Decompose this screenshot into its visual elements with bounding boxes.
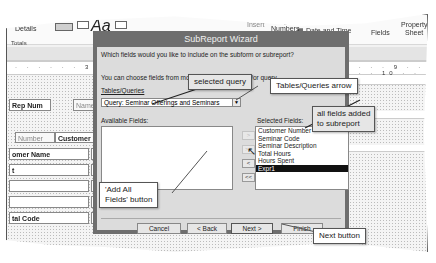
property-sheet-button[interactable]: Property (401, 21, 427, 28)
tables-queries-combo[interactable]: Query: Seminar Offerings and Seminars ▼ (101, 98, 241, 107)
list-item[interactable]: Seminar Code (256, 135, 348, 143)
callout-next-button: Next button (313, 228, 366, 244)
tables-queries-label: Tables/Queries (101, 87, 144, 94)
street-field[interactable]: t (9, 164, 89, 176)
mouse-pointer-icon: ↖ (247, 145, 256, 158)
ribbon-details-label: Details (15, 25, 36, 32)
next-button[interactable]: Next > (231, 223, 273, 234)
available-fields-label: Available Fields: (101, 117, 148, 124)
city-field[interactable] (9, 180, 89, 192)
tables-queries-value: Query: Seminar Offerings and Seminars (104, 99, 220, 106)
selected-fields-list[interactable]: Customer Number Seminar Code Seminar Des… (255, 126, 349, 190)
available-fields-list[interactable] (101, 126, 233, 190)
section-band (347, 145, 429, 152)
postal-code-field[interactable]: tal Code (9, 212, 89, 224)
list-item[interactable]: Hours Spent (256, 157, 348, 165)
back-button[interactable]: < Back (187, 223, 227, 234)
add-field-button[interactable]: > (242, 131, 255, 140)
totals-group-label: Totals (11, 40, 27, 46)
remove-all-fields-button[interactable]: << (242, 173, 255, 182)
remove-field-button[interactable]: < (242, 159, 255, 168)
state-field[interactable] (9, 196, 89, 208)
insert-image-button[interactable]: Insert (247, 21, 265, 28)
callout-all-fields-added: all fields added to subreport (312, 106, 375, 132)
callout-add-all-fields-button: 'Add All Fields' button (99, 182, 158, 208)
callout-selected-query: selected query (188, 74, 252, 90)
number-label[interactable]: Number (15, 132, 55, 143)
section-band (347, 75, 429, 85)
cancel-button[interactable]: Cancel (137, 223, 181, 234)
list-item-selected[interactable]: Expr1 (256, 165, 348, 173)
list-item[interactable]: Seminar Description (256, 142, 348, 150)
list-item[interactable]: Total Hours (256, 150, 348, 158)
dialog-question: Which fields would you like to include o… (101, 51, 294, 58)
rep-num-label[interactable]: Rep Num (9, 99, 51, 111)
selected-fields-label: Selected Fields: (257, 117, 303, 124)
ribbon-control-box[interactable] (55, 23, 73, 31)
customer-name-field[interactable]: omer Name (9, 148, 89, 160)
property-sheet-sub: Sheet (405, 29, 423, 36)
page-numbers-button[interactable]: Page (275, 17, 291, 24)
dialog-separator (101, 218, 341, 219)
chevron-down-icon[interactable]: ▼ (232, 99, 240, 106)
callout-tables-queries-arrow: Tables/Queries arrow (270, 78, 358, 94)
add-existing-fields-button[interactable]: Fields (371, 29, 390, 36)
dialog-title: SubReport Wizard (97, 31, 345, 47)
ribbon-control-box[interactable] (115, 21, 127, 29)
ribbon-control-box[interactable] (77, 21, 89, 29)
